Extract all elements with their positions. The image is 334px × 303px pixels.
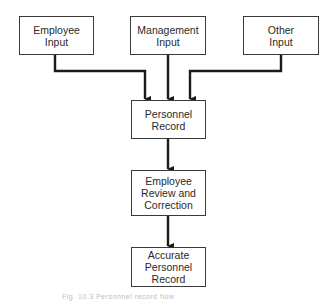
personnel-record-label: Personnel Record — [145, 108, 192, 132]
other-input-label: Other Input — [268, 24, 294, 48]
edge-employee-to-record — [55, 54, 145, 99]
review-node: Employee Review and Correction — [131, 170, 206, 216]
review-label: Employee Review and Correction — [141, 175, 196, 211]
accurate-record-label: Accurate Personnel Record — [145, 249, 192, 285]
personnel-record-node: Personnel Record — [131, 100, 206, 139]
employee-input-node: Employee Input — [19, 16, 94, 55]
management-input-node: Management Input — [130, 16, 206, 55]
management-input-label: Management Input — [137, 24, 198, 48]
employee-input-label: Employee Input — [33, 24, 80, 48]
other-input-node: Other Input — [243, 16, 319, 55]
edge-other-to-record — [190, 55, 281, 99]
accurate-record-node: Accurate Personnel Record — [131, 247, 206, 287]
figure-caption: Fig. 10.3 Personnel record flow — [62, 293, 174, 300]
